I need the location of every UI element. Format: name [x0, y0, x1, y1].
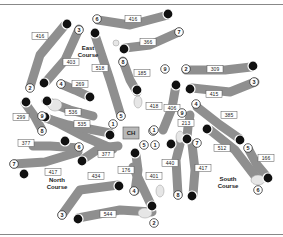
bunker — [113, 40, 119, 46]
course-name: East — [82, 45, 95, 51]
hole-number-marker[interactable]: 2 — [26, 84, 35, 93]
hole-number-marker[interactable]: 8 — [174, 191, 183, 200]
hole-number-marker[interactable]: 1 — [151, 141, 160, 150]
svg-text:7: 7 — [12, 161, 15, 167]
svg-text:8: 8 — [40, 128, 43, 134]
yardage-label: 418 — [146, 103, 162, 110]
svg-text:544: 544 — [104, 211, 113, 217]
clubhouse-marker[interactable]: CH — [123, 127, 139, 139]
svg-text:185: 185 — [138, 70, 147, 76]
hole-number-marker[interactable]: 1 — [109, 120, 118, 129]
hole-number-marker[interactable]: 5 — [140, 141, 149, 150]
yardage-label: 440 — [162, 160, 178, 167]
clubhouse-label: CH — [127, 130, 136, 136]
fairway-hole-north-4 — [135, 155, 138, 191]
yardage-label: 512 — [214, 145, 230, 152]
course-name: Course — [218, 183, 239, 189]
green — [147, 201, 157, 211]
yardage-label: 366 — [140, 39, 156, 46]
hole-number-marker[interactable]: 6 — [93, 15, 102, 24]
yardage-label: 518 — [92, 65, 108, 72]
green — [77, 156, 87, 166]
fairway-hole-north-6 — [33, 146, 79, 148]
green — [42, 96, 52, 106]
svg-text:9: 9 — [180, 110, 183, 116]
svg-text:176: 176 — [122, 167, 131, 173]
svg-text:299: 299 — [17, 114, 26, 120]
golf-course-map: 4164032695184163661855365352993773774174… — [0, 0, 283, 237]
yardage-label: 403 — [63, 59, 79, 66]
svg-text:385: 385 — [225, 112, 234, 118]
svg-text:518: 518 — [96, 65, 105, 71]
course-name: Course — [78, 52, 99, 58]
yardage-label: 401 — [146, 173, 162, 180]
hole-number-marker[interactable]: 8 — [38, 127, 47, 136]
yardage-label: 309 — [207, 66, 223, 73]
hole-number-marker[interactable]: 9 — [38, 112, 47, 121]
hole-number-marker[interactable]: 7 — [10, 160, 19, 169]
svg-text:213: 213 — [182, 120, 191, 126]
hole-number-marker[interactable]: 2 — [182, 65, 191, 74]
yardage-label: 416 — [125, 16, 141, 23]
svg-text:536: 536 — [69, 109, 78, 115]
svg-text:7: 7 — [177, 29, 180, 35]
yardage-label: 417 — [195, 165, 211, 172]
hole-number-marker[interactable]: 7 — [193, 139, 202, 148]
hole-number-marker[interactable]: 9 — [161, 65, 170, 74]
svg-text:417: 417 — [199, 165, 208, 171]
svg-text:535: 535 — [78, 121, 87, 127]
green — [19, 169, 29, 179]
hole-number-marker[interactable]: 4 — [57, 80, 66, 89]
svg-text:5: 5 — [246, 145, 249, 151]
svg-text:377: 377 — [102, 151, 111, 157]
hole-number-marker[interactable]: 5 — [117, 112, 126, 121]
hole-number-marker[interactable]: 6 — [75, 143, 84, 152]
hole-number-marker[interactable]: 7 — [175, 28, 184, 37]
hole-number-marker[interactable]: 4 — [192, 100, 201, 109]
hole-number-marker[interactable]: 6 — [254, 186, 263, 195]
course-name: North — [49, 177, 65, 183]
hole-number-marker[interactable]: 5 — [244, 144, 253, 153]
hole-number-marker[interactable]: 3 — [250, 78, 259, 87]
green — [132, 85, 142, 95]
yardage-label: 385 — [221, 112, 237, 119]
green — [187, 191, 197, 201]
yardage-label: 416 — [32, 33, 48, 40]
svg-text:3: 3 — [60, 212, 63, 218]
svg-text:417: 417 — [49, 169, 58, 175]
green — [171, 80, 181, 90]
fairway-hole-north-7 — [14, 152, 78, 164]
svg-text:3: 3 — [77, 27, 80, 33]
hole-number-marker[interactable]: 3 — [58, 211, 67, 220]
svg-text:3: 3 — [252, 79, 255, 85]
svg-text:1: 1 — [111, 121, 114, 127]
green — [21, 97, 31, 107]
course-name: Course — [47, 184, 68, 190]
svg-text:9: 9 — [163, 66, 166, 72]
yardage-label: 213 — [178, 120, 194, 127]
hole-number-marker[interactable]: 1 — [150, 126, 159, 135]
green — [39, 78, 49, 88]
hole-number-marker[interactable]: 8 — [119, 58, 128, 67]
hole-number-marker[interactable]: 3 — [75, 26, 84, 35]
yardage-label: 415 — [206, 91, 222, 98]
green — [130, 148, 140, 158]
svg-text:5: 5 — [142, 142, 145, 148]
yardage-label: 269 — [72, 81, 88, 88]
yardage-label: 536 — [65, 109, 81, 116]
yardage-label: 176 — [118, 167, 134, 174]
yardage-label: 544 — [100, 211, 116, 218]
green — [62, 19, 72, 29]
svg-text:166: 166 — [262, 155, 271, 161]
green — [105, 130, 115, 140]
svg-text:1: 1 — [153, 142, 156, 148]
svg-text:2: 2 — [184, 66, 187, 72]
hole-number-marker[interactable]: 2 — [150, 219, 159, 228]
hole-number-marker[interactable]: 9 — [178, 109, 187, 118]
svg-text:2: 2 — [152, 220, 155, 226]
svg-text:6: 6 — [256, 187, 259, 193]
svg-text:6: 6 — [95, 16, 98, 22]
yardage-label: 417 — [45, 169, 61, 176]
hole-number-marker[interactable]: 4 — [130, 187, 139, 196]
svg-text:2: 2 — [28, 85, 31, 91]
